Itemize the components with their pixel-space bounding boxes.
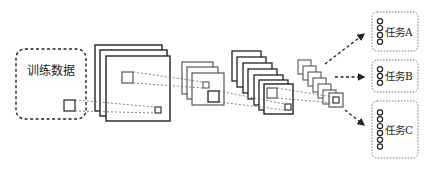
conv-layer-1	[95, 45, 170, 121]
conv-layer-2	[182, 62, 224, 105]
task-label: 任务A	[385, 26, 413, 38]
output-node	[377, 80, 382, 85]
task-boxes: 任务A任务B任务C	[372, 12, 418, 158]
output-cell	[203, 82, 209, 88]
output-node	[377, 73, 382, 78]
output-node	[377, 39, 382, 44]
task-label: 任务B	[385, 70, 413, 82]
output-cell	[155, 107, 161, 113]
output-node	[377, 26, 382, 31]
output-node	[377, 130, 382, 135]
task-box-a: 任务A	[372, 12, 418, 51]
output-cell	[333, 97, 339, 103]
conv-layer-4	[298, 60, 343, 107]
output-node	[377, 110, 382, 115]
task-label: 任务C	[385, 124, 413, 136]
task-box-b: 任务B	[372, 60, 418, 92]
output-node	[377, 117, 382, 122]
input-patch	[64, 100, 75, 111]
output-node	[377, 144, 382, 149]
output-node	[377, 124, 382, 129]
task-arrows	[325, 34, 364, 125]
arrow-to-task-c	[345, 110, 364, 125]
training-data-label: 训练数据	[27, 63, 75, 78]
training-data-box: 训练数据	[16, 49, 86, 119]
output-node	[377, 67, 382, 72]
arrow-to-task-a	[325, 34, 364, 64]
output-node	[377, 137, 382, 142]
receptive-field	[122, 72, 133, 83]
output-node	[377, 32, 382, 37]
task-box-c: 任务C	[372, 101, 418, 158]
conv-layer-3	[232, 51, 293, 114]
receptive-field	[267, 88, 277, 98]
receptive-field	[208, 91, 219, 102]
multitask-cnn-diagram: 训练数据	[0, 0, 434, 172]
output-node	[377, 19, 382, 24]
output-cell	[285, 104, 291, 110]
